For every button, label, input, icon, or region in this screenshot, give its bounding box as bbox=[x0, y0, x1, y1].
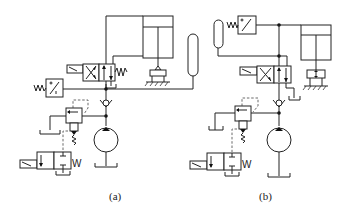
panel-label-b: (b) bbox=[259, 190, 272, 202]
pressure-switch-a bbox=[34, 79, 63, 97]
hydraulic-cylinder-b bbox=[301, 25, 331, 70]
pressure-switch-b bbox=[227, 16, 256, 34]
hydraulic-diagram: W bbox=[0, 0, 346, 224]
solenoid-icon bbox=[190, 161, 207, 169]
pipe-cyl-a bbox=[106, 16, 143, 64]
panel-b: W bbox=[190, 16, 331, 177]
hydraulic-cylinder-a bbox=[143, 16, 173, 67]
spring-icon: W bbox=[242, 159, 252, 170]
spring-icon: W bbox=[72, 158, 82, 169]
clamp-icon-a bbox=[145, 66, 170, 86]
solenoid-valve-a: W bbox=[20, 152, 82, 175]
clamp-icon-b bbox=[303, 70, 328, 90]
solenoid-icon bbox=[20, 160, 37, 168]
solenoid-valve-b: W bbox=[190, 153, 252, 176]
pump-b bbox=[267, 127, 291, 177]
accumulator-a bbox=[188, 34, 198, 89]
panel-a: W bbox=[20, 16, 198, 175]
solenoid-icon bbox=[67, 65, 83, 73]
panel-label-a: (a) bbox=[109, 190, 121, 202]
pump-a bbox=[94, 127, 118, 167]
solenoid-icon bbox=[240, 67, 257, 75]
directional-valve-a bbox=[67, 64, 127, 88]
directional-valve-b bbox=[240, 66, 300, 100]
check-valve-a bbox=[100, 100, 112, 126]
